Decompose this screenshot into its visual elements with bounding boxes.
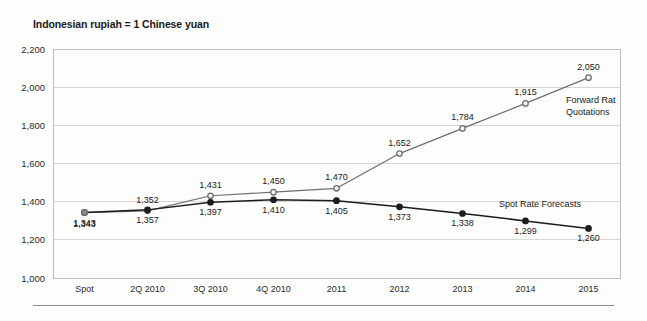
gridlines-group <box>53 49 620 278</box>
x-axis-tick-label: Spot <box>75 284 94 294</box>
x-axis-tick-label: 2012 <box>389 284 409 294</box>
data-point-marker <box>271 189 276 194</box>
data-point-marker-origin <box>82 210 88 216</box>
data-point-label: 1,357 <box>136 215 159 225</box>
data-point-marker <box>460 126 465 131</box>
series-annotations: Forward RatQuotationsSpot Rate Forecasts <box>499 95 616 209</box>
y-axis-tick-label: 1,600 <box>21 158 45 169</box>
data-point-marker <box>208 200 213 205</box>
data-point-marker <box>397 151 402 156</box>
data-point-label: 1,260 <box>577 233 600 243</box>
x-axis-tick-label: 4Q 2010 <box>256 284 291 294</box>
x-axis-tick-label: 2011 <box>327 284 346 294</box>
y-axis-tick-label: 1,000 <box>21 273 45 284</box>
data-point-marker <box>334 198 339 203</box>
x-axis-tick-label: 2Q 2010 <box>130 284 165 294</box>
data-point-label: 1,338 <box>451 218 474 228</box>
forward-series-label-line1: Forward Rat <box>566 95 616 105</box>
data-point-label-origin: 1,343 <box>73 219 96 229</box>
data-point-label: 1,352 <box>136 195 159 205</box>
y-axis-tick-label: 1,800 <box>21 120 45 131</box>
data-point-marker <box>334 186 339 191</box>
x-axis-tick-label: 2015 <box>578 284 598 294</box>
data-point-marker <box>271 197 276 202</box>
series-line-forward <box>85 78 589 213</box>
data-point-label: 1,915 <box>514 87 537 97</box>
data-point-marker <box>523 101 528 106</box>
data-point-label: 1,652 <box>388 138 411 148</box>
data-point-labels: 1,3521,4311,4501,4701,6521,7841,9152,050… <box>73 62 600 244</box>
x-axis-tick-label: 2014 <box>515 284 535 294</box>
forward-series-label-line2: Quotations <box>566 107 610 117</box>
y-axis-tick-label: 2,000 <box>21 82 45 93</box>
data-point-marker <box>145 207 150 212</box>
data-point-label: 1,397 <box>199 207 222 217</box>
data-point-marker <box>523 218 528 223</box>
x-axis-tick-label: 2013 <box>452 284 472 294</box>
x-axis-tick-label: 3Q 2010 <box>193 284 228 294</box>
data-point-marker <box>460 211 465 216</box>
y-axis-tick-labels: 2,2002,0001,8001,6001,4001,2001,000 <box>21 44 45 284</box>
data-point-label: 2,050 <box>577 62 600 72</box>
bottom-rule <box>33 305 614 306</box>
y-axis-tick-label: 1,400 <box>21 196 45 207</box>
data-point-label: 1,784 <box>451 112 474 122</box>
data-point-label: 1,450 <box>262 176 285 186</box>
data-point-label: 1,405 <box>325 206 348 216</box>
data-point-marker <box>397 204 402 209</box>
y-axis-tick-label: 1,200 <box>21 234 45 245</box>
data-point-marker <box>586 226 591 231</box>
data-point-label: 1,410 <box>262 205 285 215</box>
data-point-label: 1,431 <box>199 180 222 190</box>
spot-series-label: Spot Rate Forecasts <box>499 199 582 209</box>
data-point-marker <box>586 75 591 80</box>
plot-area: 2,2002,0001,8001,6001,4001,2001,000 Spot… <box>0 0 647 321</box>
data-point-marker <box>208 193 213 198</box>
data-point-label: 1,470 <box>325 172 348 182</box>
chart-figure: Indonesian rupiah = 1 Chinese yuan 2,200… <box>0 0 647 321</box>
line-chart-svg: 2,2002,0001,8001,6001,4001,2001,000 Spot… <box>0 0 647 321</box>
x-axis-tick-labels: Spot2Q 20103Q 20104Q 2010201120122013201… <box>75 284 598 294</box>
data-point-label: 1,373 <box>388 212 411 222</box>
y-axis-tick-label: 2,200 <box>21 44 45 55</box>
data-point-label: 1,299 <box>514 226 537 236</box>
